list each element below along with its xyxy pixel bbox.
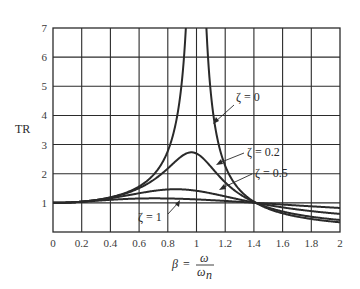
y-tick-label: 1 [42,197,48,209]
label-zeta-0: ζ = 0 [213,90,260,124]
x-axis-title-eq: = [183,257,190,271]
x-tick-label: 1 [194,237,200,249]
x-axis-ticks: 00.20.40.60.811.21.41.61.82 [50,237,343,249]
label-zeta-0-text: ζ = 0 [236,90,260,104]
label-zeta-1-text: ζ = 1 [138,210,162,224]
x-axis-title-lhs: β [171,257,178,271]
x-axis-title-den: ω [197,265,205,279]
x-tick-label: 0.6 [132,237,146,249]
x-tick-label: 1.4 [247,237,261,249]
y-tick-label: 6 [42,51,48,63]
curve-zeta-0 [206,15,340,222]
curve-zeta-0 [53,0,187,203]
x-tick-label: 0.4 [104,237,118,249]
x-tick-label: 2 [337,237,343,249]
y-tick-label: 4 [42,109,48,121]
chart: 1234567 00.20.40.60.811.21.41.61.82 TR β… [0,0,360,289]
y-tick-label: 2 [42,168,48,180]
x-tick-label: 1.8 [304,237,318,249]
label-zeta-1: ζ = 1 [138,200,180,224]
x-tick-label: 0.2 [75,237,89,249]
arrowhead-zeta-0.2 [216,159,223,165]
y-axis-title: TR [15,122,30,136]
x-axis-title: β = ω ω n [171,251,214,282]
label-zeta-0.2-text: ζ = 0.2 [247,145,280,159]
y-tick-label: 3 [42,139,48,151]
x-axis-title-den-sub: n [206,268,212,282]
x-tick-label: 0 [50,237,56,249]
x-axis-title-num: ω [200,251,208,265]
leader-zeta-0 [215,105,234,122]
label-zeta-0.5-text: ζ = 0.5 [255,166,288,180]
x-tick-label: 0.8 [161,237,175,249]
y-tick-label: 7 [42,22,48,34]
x-tick-label: 1.2 [218,237,232,249]
y-tick-label: 5 [42,80,48,92]
y-axis-ticks: 1234567 [42,22,48,209]
x-tick-label: 1.6 [276,237,290,249]
